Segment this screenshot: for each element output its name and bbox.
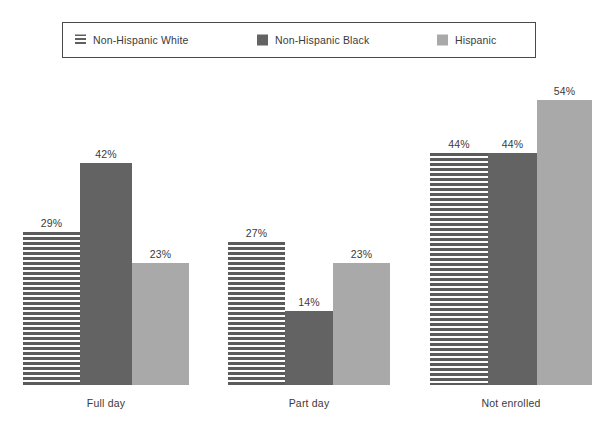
- plot-area: 29% 42% 23% Full day 27% 14% 23% Part da…: [0, 0, 616, 424]
- bar-chart: Non-Hispanic White Non-Hispanic Black Hi…: [0, 0, 616, 424]
- bar-not-enrolled-hispanic: [537, 100, 592, 385]
- bar-value-label: 29%: [23, 218, 80, 229]
- bar-full-day-non-hispanic-white: [23, 232, 80, 385]
- bar-value-label: 44%: [430, 139, 488, 150]
- bar-value-label: 42%: [80, 149, 132, 160]
- bar-full-day-non-hispanic-black: [80, 163, 132, 385]
- bar-value-label: 54%: [537, 86, 592, 97]
- bar-value-label: 14%: [285, 297, 333, 308]
- bar-value-label: 27%: [228, 228, 285, 239]
- bar-not-enrolled-non-hispanic-black: [488, 153, 537, 385]
- bar-part-day-non-hispanic-black: [285, 311, 333, 385]
- category-label-not-enrolled: Not enrolled: [430, 398, 592, 409]
- bar-part-day-hispanic: [333, 263, 390, 385]
- bar-value-label: 23%: [132, 249, 189, 260]
- bar-value-label: 23%: [333, 249, 390, 260]
- category-label-part-day: Part day: [228, 398, 390, 409]
- bar-full-day-hispanic: [132, 263, 189, 385]
- category-label-full-day: Full day: [23, 398, 189, 409]
- bar-not-enrolled-non-hispanic-white: [430, 153, 488, 385]
- bar-value-label: 44%: [488, 139, 537, 150]
- bar-part-day-non-hispanic-white: [228, 242, 285, 385]
